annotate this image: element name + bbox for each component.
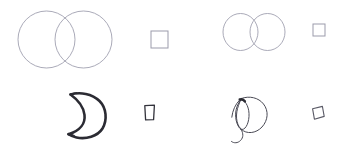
spiral-coil-shape (232, 97, 268, 143)
outline-square-top-left (151, 31, 168, 48)
coil-tail (232, 130, 243, 143)
cell-top-left (18, 11, 168, 68)
crescent-inner-arc (69, 95, 85, 135)
circle-right (55, 11, 112, 68)
sketch-canvas: Sketch shape comparison grid top-left to… (0, 0, 346, 152)
square-outline (313, 106, 325, 119)
cell-bottom-left (68, 93, 154, 138)
overlapping-circles-top-right (223, 14, 285, 51)
circle-right (250, 14, 285, 51)
outline-square-top-right (313, 24, 325, 36)
overlapping-circles-top-left (18, 11, 112, 68)
square-outline (145, 105, 155, 120)
tilted-sketch-square-bottom-right (313, 106, 325, 119)
coil-front-rim (241, 99, 249, 130)
shapes-svg (0, 0, 346, 152)
crescent-moon-shape (68, 93, 105, 138)
coil-outer-loop (236, 97, 267, 132)
cell-top-right (223, 14, 325, 51)
sketch-square-bottom-left (145, 105, 155, 120)
circle-left (223, 14, 258, 51)
circle-left (18, 11, 75, 68)
cell-bottom-right (232, 97, 325, 143)
